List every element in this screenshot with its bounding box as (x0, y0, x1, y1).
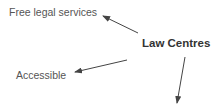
arrow-to-accessible (75, 60, 127, 72)
node-free-legal-services: Free legal services (9, 6, 97, 18)
arrow-down (177, 57, 185, 103)
arrow-to-free-legal-services (103, 16, 138, 33)
node-accessible: Accessible (16, 69, 66, 81)
center-node-law-centres: Law Centres (142, 37, 210, 49)
